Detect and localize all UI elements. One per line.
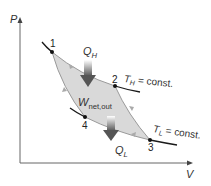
arrow-2-3-icon xyxy=(129,106,134,111)
heat-out-symbol: Q xyxy=(115,144,124,156)
heat-out-label: QL xyxy=(115,145,128,158)
v-axis-arrowhead-icon xyxy=(187,161,193,166)
point-3-label: 3 xyxy=(148,143,154,153)
isotherm-high-suffix: = const. xyxy=(137,74,173,89)
v-axis-label: V xyxy=(186,169,193,180)
p-axis-label: P xyxy=(10,14,17,25)
net-work-label: Wnet,out xyxy=(78,97,112,110)
heat-in-subscript: H xyxy=(92,51,98,60)
point-4-label: 4 xyxy=(82,121,88,131)
heat-out-subscript: L xyxy=(124,150,128,159)
cycle-region xyxy=(52,52,150,140)
net-work-symbol: W xyxy=(78,96,88,108)
point-4-dot xyxy=(83,115,87,119)
isotherm-high-subscript: H xyxy=(129,79,135,86)
pv-diagram xyxy=(0,0,211,186)
heat-in-symbol: Q xyxy=(83,45,92,57)
point-1-label: 1 xyxy=(50,39,56,49)
p-axis-arrowhead-icon xyxy=(18,17,23,23)
heat-in-label: QH xyxy=(83,46,97,59)
point-1-dot xyxy=(50,50,54,54)
point-2-label: 2 xyxy=(112,75,118,85)
net-work-subscript: net,out xyxy=(88,102,112,111)
isotherm-low-subscript: L xyxy=(158,129,163,136)
